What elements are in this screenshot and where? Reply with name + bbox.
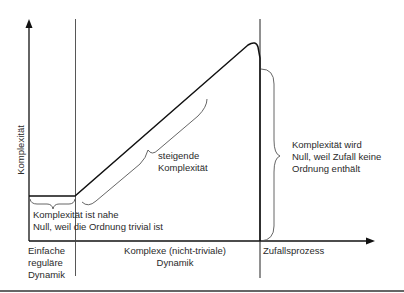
annotation-random-zero-line3: Ordnung enthält (292, 163, 360, 174)
y-axis-arrow-icon (26, 19, 33, 28)
region-einfach-line3: Dynamik (28, 269, 65, 280)
brace-random-zero (261, 69, 280, 241)
region-zufall-line1: Zufallsprozess (263, 245, 324, 256)
x-axis-arrow-icon (366, 238, 375, 245)
y-axis-label: Komplexität (15, 125, 26, 175)
annotation-random-zero-line2: Null, weil Zufall keine (292, 151, 381, 162)
annotation-near-zero-line1: Komplexität ist nahe (33, 209, 119, 220)
annotation-random-zero-line1: Komplexität wird (292, 139, 362, 150)
region-komplex-line2: Dynamik (157, 257, 194, 268)
region-einfach-line2: reguläre (28, 257, 63, 268)
annotation-rising-line2: Komplexität (158, 162, 208, 173)
brace-near-zero (30, 199, 75, 209)
complexity-diagram: Komplexität Komplexität ist nahe Null, w… (0, 0, 404, 293)
region-komplex-line1: Komplexe (nicht-triviale) (124, 245, 226, 256)
region-einfach-line1: Einfache (28, 245, 65, 256)
annotation-near-zero-line2: Null, weil die Ordnung trivial ist (33, 221, 163, 232)
annotation-rising-line1: steigende (158, 150, 199, 161)
